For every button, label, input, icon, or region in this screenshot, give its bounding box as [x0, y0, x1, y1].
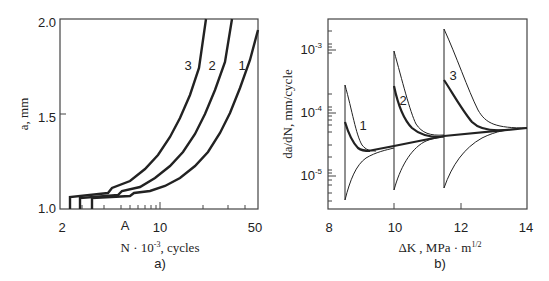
xlabel-a: N · 10-3, cycles	[121, 240, 200, 255]
xtick-label-a-10: 10	[153, 220, 167, 235]
xtick-label-a-A: A	[121, 218, 130, 233]
ytick-label-a-3: 2.0	[38, 15, 56, 30]
curve-a-3	[70, 19, 206, 209]
curve-b-1-lower	[345, 148, 394, 200]
curve-a-2	[80, 19, 232, 209]
xtick-label-b-12: 12	[454, 220, 468, 235]
ytick-label-b-1e-4: 10-4	[300, 104, 322, 120]
xticks-a	[82, 202, 245, 209]
chart-b: 10-3 10-4 10-5 8 10 12 14 da/dN, mm/cycl…	[280, 19, 533, 271]
ytick-label-b-1e-3: 10-3	[300, 41, 322, 57]
yticks-b	[328, 31, 336, 201]
xtick-label-b-10: 10	[388, 220, 402, 235]
plot-frame-b	[328, 19, 527, 209]
curve-label-a-1: 1	[238, 58, 245, 73]
panel-label-b: b)	[434, 256, 446, 271]
xtick-label-a-2: 2	[58, 220, 65, 235]
curve-b-3-lower	[444, 128, 527, 188]
curve-b-3-thick	[444, 80, 505, 130]
chart-a: 1.0 1.5 2.0 2 A 10 50 a, mm N · 10-3, cy…	[16, 15, 262, 271]
curve-label-a-2: 2	[208, 58, 215, 73]
ytick-label-a-1: 1.0	[38, 201, 56, 216]
xlabel-b: ΔK , MPa · m1/2	[398, 240, 481, 255]
xticks-b	[394, 203, 461, 209]
xtick-label-b-14: 14	[519, 220, 533, 235]
xtick-label-b-8: 8	[325, 220, 332, 235]
curve-b-baseline	[368, 128, 527, 151]
figure: 1.0 1.5 2.0 2 A 10 50 a, mm N · 10-3, cy…	[0, 0, 549, 281]
ylabel-b: da/dN, mm/cycle	[280, 69, 295, 159]
ytick-label-a-2: 1.5	[38, 110, 56, 125]
panel-label-a: a)	[154, 256, 166, 271]
curve-label-a-3: 3	[184, 58, 191, 73]
xtick-label-a-50: 50	[248, 220, 262, 235]
curve-label-b-3: 3	[449, 68, 456, 83]
ytick-label-b-1e-5: 10-5	[300, 167, 322, 183]
ylabel-a: a, mm	[16, 98, 31, 131]
curve-label-b-2: 2	[399, 93, 406, 108]
curve-a-1	[92, 30, 258, 209]
curve-label-b-1: 1	[359, 118, 366, 133]
